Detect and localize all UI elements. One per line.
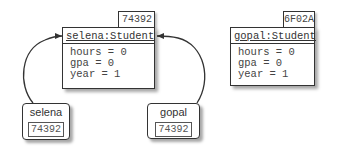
field-year: year = 1: [238, 69, 314, 80]
variable-value: 74392: [28, 122, 64, 137]
field-year: year = 1: [70, 69, 154, 80]
variable-name: gopal: [148, 106, 199, 118]
object-address-tab: 74392: [118, 11, 155, 28]
selena-reference-arrow: [24, 36, 62, 103]
variable-gopal: gopal 74392: [147, 103, 200, 139]
object-fields: hours = 0 gpa = 0 year = 1: [63, 44, 154, 80]
object-title: selena:Student: [63, 28, 154, 44]
variable-value: 74392: [155, 122, 191, 137]
variable-selena: selena 74392: [22, 103, 70, 140]
student-object-selena: selena:Student hours = 0 gpa = 0 year = …: [62, 27, 155, 89]
object-address-tab: 6F02A: [283, 11, 315, 28]
variable-name: selena: [23, 106, 69, 118]
gopal-reference-arrow: [157, 36, 205, 103]
student-object-gopal: gopal:Student hours = 0 gpa = 0 year = 1: [230, 27, 315, 86]
object-fields: hours = 0 gpa = 0 year = 1: [231, 44, 314, 80]
object-title: gopal:Student: [231, 28, 314, 44]
